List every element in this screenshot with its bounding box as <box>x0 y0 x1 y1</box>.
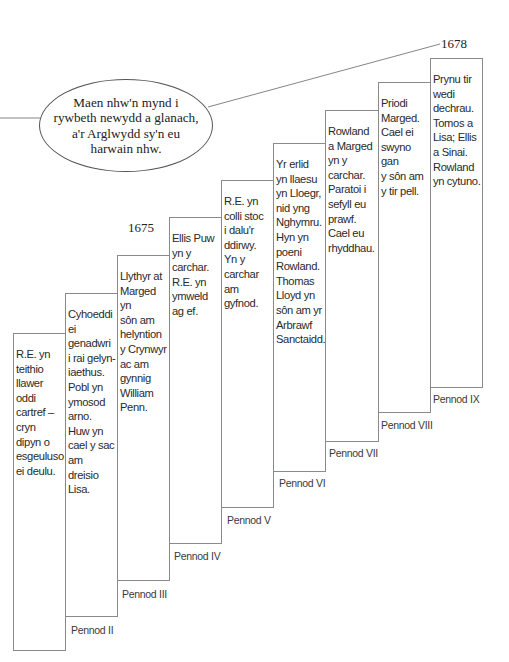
chapter-label-8: Pennod VIII <box>381 419 433 431</box>
chapter-label-9: Pennod IX <box>433 393 479 405</box>
year-start-label: 1675 <box>128 220 154 236</box>
chapter-text: Priodi Marged. Cael ei swyno gan y sôn a… <box>381 96 429 198</box>
timeline-diagram: Maen nhw'n mynd i rywbeth newydd a glana… <box>0 0 509 662</box>
year-end-label: 1678 <box>441 36 467 52</box>
chapter-label-7: Pennod VII <box>329 447 378 459</box>
chapter-label-4: Pennod IV <box>174 550 220 562</box>
chapter-box-7: Rowland a Marged yn y carchar. Paratoi i… <box>325 110 379 442</box>
chapter-box-6: Yr erlid yn llaesu yn Lloegr, nid yng Ng… <box>273 143 326 472</box>
chapter-text: Ellis Puw yn y carchar. R.E. yn ymweld a… <box>172 231 220 319</box>
chapter-label-2: Pennod II <box>71 624 113 636</box>
chapter-box-9: Prynu tir wedi dechrau. Tomos a Lisa; El… <box>430 58 483 388</box>
chapter-label-6: Pennod VI <box>279 477 325 489</box>
chapter-label-3: Pennod III <box>122 588 167 600</box>
chapter-text: Cyhoeddi ei genadwri i rai gelyn- iaethu… <box>68 307 116 497</box>
chapter-text: Rowland a Marged yn y carchar. Paratoi i… <box>328 124 377 255</box>
chapter-text: R.E. yn teithio llawer oddi cartref – cr… <box>16 347 64 478</box>
chapter-box-5: R.E. yn colli stoc i dalu'r ddirwy. Yn y… <box>221 180 274 508</box>
chapter-box-2: Cyhoeddi ei genadwri i rai gelyn- iaethu… <box>65 293 118 617</box>
speech-bubble: Maen nhw'n mynd i rywbeth newydd a glana… <box>39 79 213 172</box>
chapter-box-8: Priodi Marged. Cael ei swyno gan y sôn a… <box>378 82 431 413</box>
speech-bubble-text: Maen nhw'n mynd i rywbeth newydd a glana… <box>53 95 198 157</box>
chapter-box-1: R.E. yn teithio llawer oddi cartref – cr… <box>13 333 66 651</box>
chapter-box-3: Llythyr at Marged yn sôn am helyntion y … <box>117 255 170 581</box>
chapter-text: Prynu tir wedi dechrau. Tomos a Lisa; El… <box>433 72 481 189</box>
chapter-text: R.E. yn colli stoc i dalu'r ddirwy. Yn y… <box>224 194 272 311</box>
chapter-label-5: Pennod V <box>227 514 271 526</box>
chapter-text: Yr erlid yn llaesu yn Lloegr, nid yng Ng… <box>276 157 324 347</box>
chapter-box-4: Ellis Puw yn y carchar. R.E. yn ymweld a… <box>169 217 222 544</box>
chapter-text: Llythyr at Marged yn sôn am helyntion y … <box>120 269 168 415</box>
